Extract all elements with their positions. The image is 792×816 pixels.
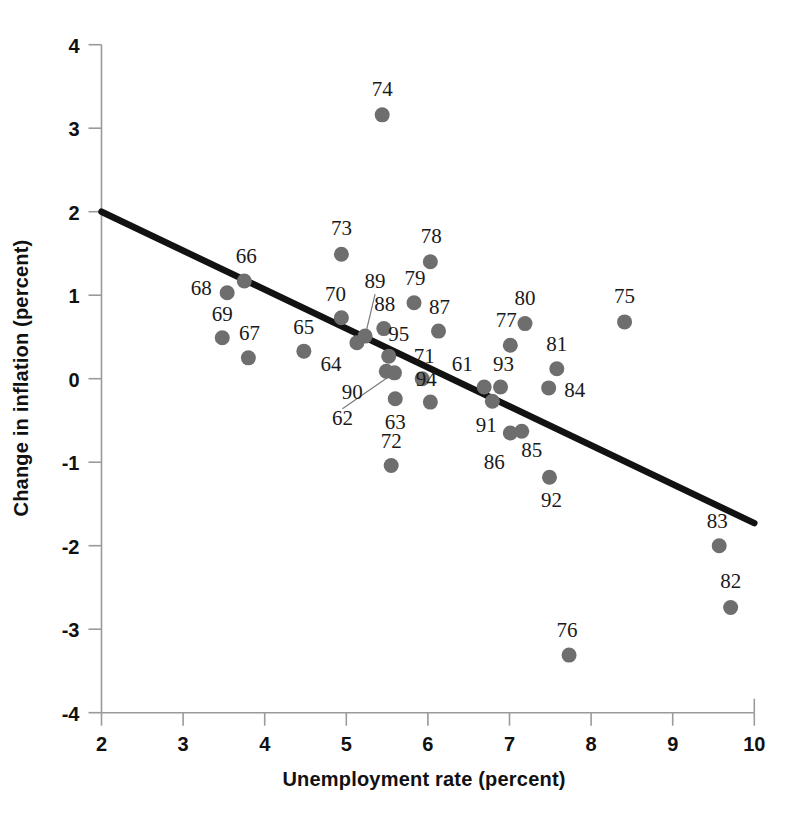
data-point-label: 89 [365, 269, 386, 293]
data-point-label: 73 [331, 216, 352, 240]
x-tick-label: 2 [96, 733, 107, 755]
data-point [518, 316, 533, 331]
x-tick-label: 4 [259, 733, 271, 755]
x-tick-label: 8 [586, 733, 597, 755]
point-labels: 6162636465666768697071727374757677787980… [191, 77, 741, 642]
data-point [477, 380, 492, 395]
data-point [334, 310, 349, 325]
data-point [334, 247, 349, 262]
x-tick-label: 7 [504, 733, 515, 755]
data-point-label: 74 [372, 77, 394, 101]
data-point [375, 107, 390, 122]
y-axis-ticks: 43210-1-2-3-4 [62, 35, 102, 725]
data-point-label: 88 [374, 292, 395, 316]
data-point-label: 82 [720, 569, 741, 593]
data-point [358, 329, 373, 344]
x-tick-label: 3 [178, 733, 189, 755]
scatter-chart: 2345678910 43210-1-2-3-4 616263646566676… [0, 0, 792, 816]
data-point [388, 391, 403, 406]
y-axis-title: Change in inflation (percent) [10, 240, 32, 517]
x-axis-title: Unemployment rate (percent) [282, 768, 565, 790]
y-tick-label: -3 [62, 619, 80, 641]
data-point-label: 66 [236, 244, 257, 268]
plot-area: 2345678910 43210-1-2-3-4 616263646566676… [0, 0, 792, 816]
data-point-label: 71 [414, 344, 435, 368]
data-point-label: 61 [452, 352, 473, 376]
data-point-label: 69 [212, 302, 233, 326]
data-point-label: 93 [493, 352, 514, 376]
data-points [215, 107, 738, 662]
data-point [423, 395, 438, 410]
data-point [503, 338, 518, 353]
data-point [723, 600, 738, 615]
data-point-label: 64 [320, 352, 342, 376]
data-point [407, 295, 422, 310]
data-point-label: 67 [239, 321, 260, 345]
data-point [485, 394, 500, 409]
data-point [220, 285, 235, 300]
y-tick-label: -2 [62, 536, 80, 558]
data-point-label: 68 [191, 276, 212, 300]
y-tick-label: 2 [68, 202, 79, 224]
data-point [712, 538, 727, 553]
data-point-label: 62 [332, 406, 353, 430]
x-tick-label: 9 [667, 733, 678, 755]
data-point [493, 380, 508, 395]
data-point [215, 330, 230, 345]
data-point-label: 95 [388, 322, 409, 346]
data-point [549, 361, 564, 376]
data-point [241, 350, 256, 365]
data-point-label: 72 [381, 429, 402, 453]
y-tick-label: 3 [68, 118, 79, 140]
data-point-label: 65 [293, 315, 314, 339]
data-point-label: 78 [421, 224, 442, 248]
data-point-label: 94 [416, 367, 438, 391]
y-tick-label: -4 [62, 703, 81, 725]
data-point-label: 92 [541, 488, 562, 512]
data-point-label: 81 [546, 332, 567, 356]
data-point-label: 90 [342, 380, 363, 404]
data-point-label: 85 [521, 438, 542, 462]
data-point-label: 77 [496, 308, 517, 332]
data-point-label: 86 [484, 450, 505, 474]
data-point-label: 79 [405, 266, 426, 290]
data-point-label: 83 [707, 509, 728, 533]
data-point-label: 76 [557, 618, 578, 642]
data-point-label: 91 [476, 413, 497, 437]
data-point [617, 314, 632, 329]
data-point [384, 458, 399, 473]
y-tick-label: 1 [68, 285, 79, 307]
data-point [431, 324, 446, 339]
data-point [503, 425, 518, 440]
data-point [237, 274, 252, 289]
x-tick-label: 5 [341, 733, 352, 755]
data-point-label: 75 [614, 284, 635, 308]
data-point-label: 80 [515, 286, 536, 310]
data-point [542, 470, 557, 485]
y-tick-label: 4 [68, 35, 80, 57]
data-point [379, 364, 394, 379]
data-point [296, 344, 311, 359]
x-tick-label: 6 [422, 733, 433, 755]
data-point [541, 380, 556, 395]
data-point-label: 87 [429, 295, 450, 319]
x-tick-label: 10 [743, 733, 765, 755]
data-point [562, 648, 577, 663]
y-tick-label: -1 [62, 452, 80, 474]
data-point-label: 84 [564, 378, 586, 402]
y-tick-label: 0 [68, 369, 79, 391]
data-point-label: 70 [325, 282, 346, 306]
data-point [381, 349, 396, 364]
x-axis-ticks: 2345678910 [96, 713, 765, 755]
